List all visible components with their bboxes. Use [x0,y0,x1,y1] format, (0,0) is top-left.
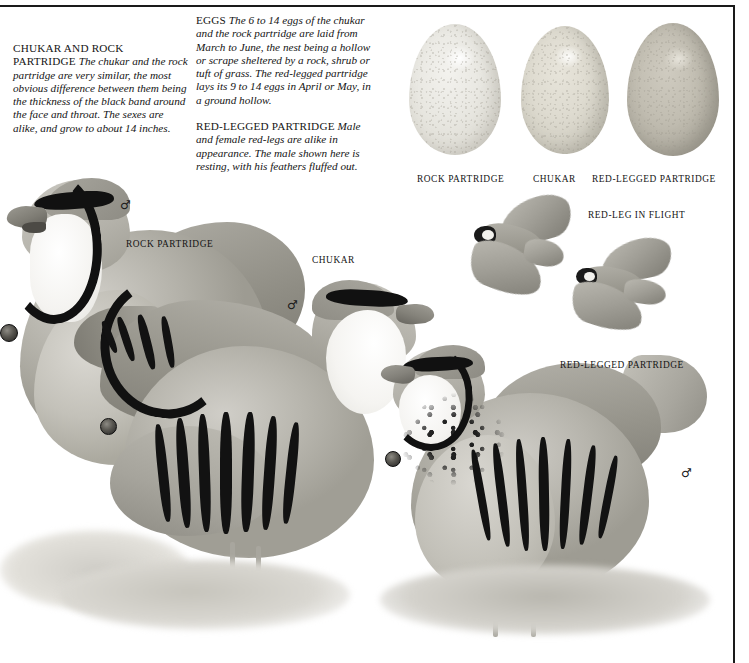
ground-wash-right [380,565,710,635]
chukar-bill [395,302,435,325]
bird-red-leg-in-flight-upper [462,196,577,294]
red-partridge-neck-speckling [401,391,531,506]
egg-speckle-texture [627,23,719,156]
chukar-eye [100,418,117,435]
fly-throat [482,230,494,240]
egg-label-red-legged-partridge: RED-LEGGED PARTRIDGE [592,174,716,184]
male-symbol-rock-partridge: ♂ [120,198,131,212]
male-symbol-red-legged-partridge: ♂ [681,466,692,480]
ground-wash-left [60,560,350,630]
caption-lead: EGGS [196,14,226,26]
illustration-plate: CHUKAR AND ROCK PARTRIDGE The chukar and… [0,0,749,663]
caption-body: The 6 to 14 eggs of the chukar and the r… [196,14,371,106]
top-rule [0,5,735,7]
caption-lead: RED-LEGGED PARTRIDGE [196,120,335,132]
label-rock-partridge: ROCK PARTRIDGE [126,239,213,249]
fly-throat [584,272,595,281]
egg-speckle-texture [409,24,501,155]
egg-chukar [521,26,609,154]
flank-bar [220,412,232,534]
red-partridge-eye [385,451,401,467]
egg-speckle-texture [521,26,609,154]
label-red-legged-partridge: RED-LEGGED PARTRIDGE [560,360,684,370]
egg-red-legged-partridge [627,23,719,156]
rock-partridge-eye [0,324,18,342]
rock-partridge-lower-bill [22,222,46,233]
bird-red-leg-in-flight-lower [566,240,678,328]
label-red-leg-in-flight: RED-LEG IN FLIGHT [588,210,685,220]
caption-eggs-and-redleg: EGGS The 6 to 14 eggs of the chukar and … [196,14,372,173]
male-symbol-chukar: ♂ [287,298,298,312]
right-border-rule [733,5,735,663]
egg-rock-partridge [409,24,501,155]
label-chukar: CHUKAR [312,255,355,265]
egg-label-chukar: CHUKAR [533,174,576,184]
caption-chukar-and-rock: CHUKAR AND ROCK PARTRIDGE The chukar and… [13,42,189,135]
egg-label-rock-partridge: ROCK PARTRIDGE [417,174,504,184]
